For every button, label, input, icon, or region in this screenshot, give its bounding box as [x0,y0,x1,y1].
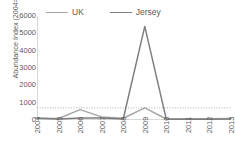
x-tick-label: 2006 [76,110,85,140]
series-line-uk [37,108,231,119]
y-tick-label: 5000 [19,29,36,37]
y-tick-label: 2000 [19,81,36,89]
x-tick-label: 2012 [205,110,214,140]
y-tick-label: 4000 [19,47,36,55]
plot-svg [37,16,231,120]
x-tick-label: 2011 [184,110,193,140]
line-chart: UK Jersey Abundance Index (2004=100) 010… [0,0,235,151]
x-tick-label: 2008 [119,110,128,140]
y-tick-label: 6000 [19,12,36,20]
y-tick-label: 1000 [19,99,36,107]
y-axis-tick-labels: 0100020003000400050006000 [12,16,36,120]
x-tick-label: 2009 [141,110,150,140]
y-tick-label: 3000 [19,64,36,72]
x-axis-tick-labels: 2004200520062007200820092010201120122013 [37,121,231,151]
x-tick-label: 2005 [55,110,64,140]
series-line-jersey [37,26,231,119]
plot-area [37,16,231,120]
x-tick-label: 2004 [33,110,42,140]
x-tick-label: 2010 [162,110,171,140]
legend-swatch-uk-icon [46,12,68,13]
x-tick-label: 2013 [227,110,235,140]
legend-swatch-jersey-icon [110,12,132,13]
x-tick-label: 2007 [98,110,107,140]
